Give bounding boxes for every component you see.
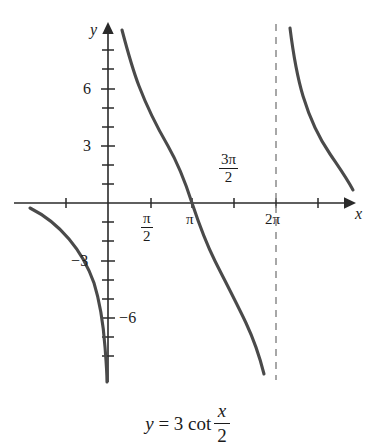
x-tick-label-pi-over-2: π 2 [141, 211, 153, 244]
x-tick-label-pi: π [186, 212, 194, 227]
figure-caption: y = 3 cot x 2 [0, 400, 375, 446]
caption-fraction-x-over-2: x 2 [214, 400, 230, 446]
y-tick-label-minus-6: −6 [119, 310, 136, 326]
curve-right-branch [290, 28, 353, 190]
fraction-3pi-over-2: 3π 2 [219, 152, 238, 185]
curve-left-branch [30, 208, 107, 382]
y-axis-label: y [90, 22, 97, 38]
fraction-denominator: 2 [219, 169, 238, 185]
caption-coefficient: 3 cot [174, 413, 211, 434]
curve-middle-branch [122, 30, 264, 374]
fraction-pi-over-2: π 2 [141, 211, 153, 244]
fraction-numerator: 3π [219, 152, 238, 169]
caption-y: y [145, 413, 153, 434]
x-tick-label-2pi: 2π [265, 212, 280, 227]
x-axis-label: x [355, 206, 362, 222]
caption-equals: = [158, 413, 169, 434]
y-axis-arrowhead [102, 22, 113, 34]
y-tick-label-minus-3: −3 [71, 253, 88, 269]
caption-fraction-denominator: 2 [214, 424, 230, 446]
y-tick-label-6: 6 [83, 81, 91, 97]
fraction-numerator: π [141, 211, 153, 228]
x-tick-label-3pi-over-2: 3π 2 [219, 152, 238, 185]
fraction-denominator: 2 [141, 228, 153, 244]
y-tick-label-3: 3 [83, 138, 91, 154]
caption-fraction-numerator: x [214, 400, 230, 424]
